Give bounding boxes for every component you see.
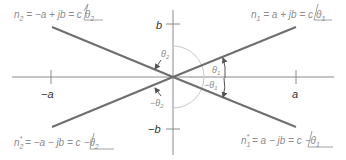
svg-text:n2* = −a − jb = c−θ2: n2* = −a − jb = c−θ2 — [14, 135, 99, 150]
equation-n1-conjugate: n1* = a − jb = c−θ1 — [241, 131, 333, 148]
axis-label-neg-a: −a — [41, 88, 54, 100]
theta2-arrow — [155, 60, 161, 69]
theta1-arrow — [223, 58, 225, 78]
label-theta1: θ1 — [212, 65, 220, 76]
equation-n1: n1 = a + jb = cθ1 — [251, 4, 332, 22]
label-neg-theta1: −θ1 — [204, 80, 217, 91]
label-theta2: θ2 — [161, 49, 170, 60]
neg-theta2-arrow — [155, 88, 161, 96]
axis-label-b: b — [156, 19, 162, 31]
axis-label-neg-b: −b — [148, 123, 161, 135]
neg-theta1-arrow — [223, 78, 225, 97]
phasor-n2-line — [52, 27, 173, 77]
complex-plane-diagram: b −b −a a θ2 −θ2 θ1 −θ1 n2 = −a + jb = c… — [0, 0, 346, 160]
axis-label-a: a — [292, 88, 298, 100]
label-neg-theta2: −θ2 — [150, 98, 164, 109]
svg-text:n2 = −a + jb = cθ2: n2 = −a + jb = cθ2 — [14, 9, 94, 22]
equation-n2: n2 = −a + jb = cθ2 — [14, 4, 103, 22]
equation-n2-conjugate: n2* = −a − jb = c−θ2 — [14, 133, 114, 150]
